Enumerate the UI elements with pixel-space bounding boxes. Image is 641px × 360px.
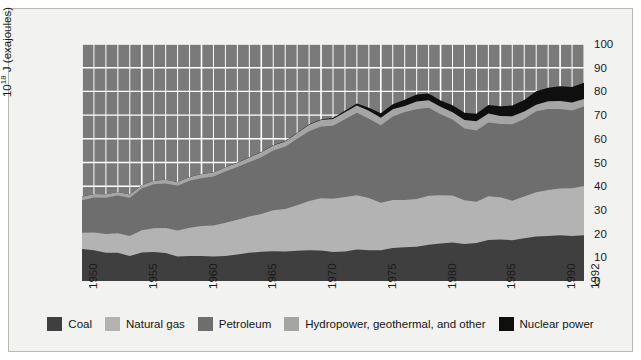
legend-swatch	[198, 317, 213, 331]
x-tick-label: 1955	[147, 263, 159, 289]
legend-label: Petroleum	[219, 318, 271, 330]
y-axis-title-prefix: 10	[1, 84, 13, 97]
x-tick-label: 1975	[386, 263, 398, 289]
y-axis-title-suffix: J (exajoules)	[1, 7, 13, 75]
stacked-area-chart	[82, 44, 584, 281]
y-tick-label-right: 40	[594, 181, 622, 191]
y-tick-label-right: 50	[594, 158, 622, 168]
y-tick-label-right: 90	[594, 63, 622, 73]
legend-swatch	[499, 317, 514, 331]
y-axis-title-exponent: 18	[0, 75, 8, 84]
y-axis-title: 1018 J (exajoules)	[0, 0, 13, 127]
legend-label: Natural gas	[126, 318, 185, 330]
chart-figure: 1018 J (exajoules) 010203040506070809010…	[8, 8, 633, 352]
legend-item[interactable]: Coal	[47, 317, 92, 331]
x-tick-label: 1992	[589, 263, 601, 289]
x-tick-label: 1985	[505, 263, 517, 289]
legend-item[interactable]: Nuclear power	[499, 317, 594, 331]
y-tick-label-right: 30	[594, 205, 622, 215]
legend-label: Nuclear power	[520, 318, 594, 330]
x-tick-label: 1970	[326, 263, 338, 289]
legend-swatch	[105, 317, 120, 331]
y-tick-label-right: 10	[594, 252, 622, 262]
legend-swatch	[284, 317, 299, 331]
legend-label: Hydropower, geothermal, and other	[305, 318, 485, 330]
legend-item[interactable]: Natural gas	[105, 317, 185, 331]
x-tick-label: 1950	[87, 263, 99, 289]
legend-label: Coal	[68, 318, 92, 330]
legend-swatch	[47, 317, 62, 331]
chart-legend: CoalNatural gasPetroleumHydropower, geot…	[9, 317, 632, 331]
x-tick-label: 1965	[266, 263, 278, 289]
legend-item[interactable]: Petroleum	[198, 317, 271, 331]
x-tick-label: 1980	[446, 263, 458, 289]
y-tick-label-right: 60	[594, 134, 622, 144]
x-tick-label: 1960	[207, 263, 219, 289]
y-tick-label-right: 80	[594, 86, 622, 96]
y-tick-label-right: 70	[594, 110, 622, 120]
plot-area	[82, 44, 584, 281]
y-tick-label-right: 100	[594, 39, 622, 49]
plot-region: 0102030405060708090100010203040506070809…	[82, 44, 584, 281]
legend-item[interactable]: Hydropower, geothermal, and other	[284, 317, 485, 331]
y-tick-label-right: 20	[594, 229, 622, 239]
x-tick-label: 1990	[565, 263, 577, 289]
